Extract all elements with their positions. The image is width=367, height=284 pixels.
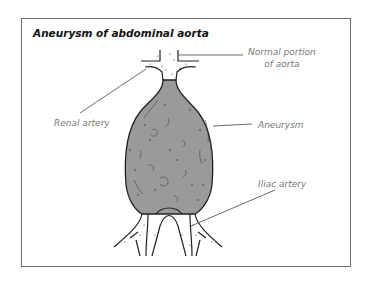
label-iliac-artery: Iliac artery	[258, 178, 306, 190]
leader-renal-artery	[80, 69, 146, 113]
label-aneurysm: Aneurysm	[258, 119, 304, 131]
leader-aneurysm	[213, 124, 252, 126]
label-normal-portion: Normal portion of aorta	[248, 46, 316, 70]
label-renal-artery: Renal artery	[54, 117, 110, 129]
aneurysm-sac	[125, 80, 212, 214]
label-normal-portion-line1: Normal portion	[248, 46, 316, 58]
aorta-illustration	[0, 0, 367, 284]
iliac-arteries	[114, 208, 222, 256]
label-normal-portion-line2: of aorta	[248, 58, 316, 70]
